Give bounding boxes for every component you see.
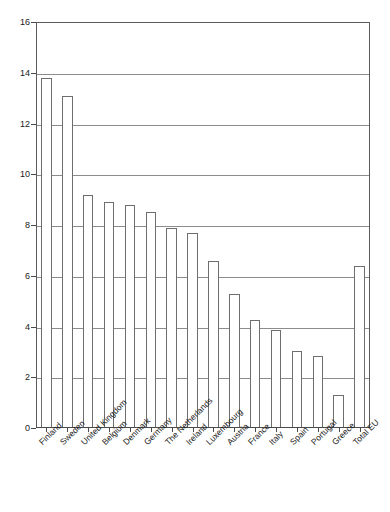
bar [83,195,94,428]
x-tick-mark [46,428,47,432]
y-tick-mark [31,124,36,125]
bar [313,356,324,428]
y-tick-mark [31,327,36,328]
x-tick-mark [234,428,235,432]
bar [354,266,365,428]
bar [250,320,261,428]
bar [104,202,115,428]
y-tick-label: 8 [4,221,30,230]
x-tick-mark [88,428,89,432]
x-tick-mark [318,428,319,432]
x-tick-mark [213,428,214,432]
y-tick-label: 14 [4,68,30,77]
x-tick-mark [193,428,194,432]
y-tick-label: 4 [4,322,30,331]
x-tick-mark [109,428,110,432]
y-tick-mark [31,73,36,74]
bar-chart: 0246810121416 FinlandSwedenUnited Kingdo… [0,0,390,512]
y-tick-mark [31,276,36,277]
y-tick-mark [31,22,36,23]
y-tick-mark [31,377,36,378]
x-tick-label: Spain [289,425,311,447]
bar-series [36,22,370,428]
y-tick-label: 16 [4,18,30,27]
y-tick-mark [31,428,36,429]
y-tick-label: 10 [4,170,30,179]
bar [271,330,282,428]
bar [62,96,73,428]
x-tick-mark [172,428,173,432]
y-tick-label: 6 [4,271,30,280]
bar [146,212,157,428]
bar [292,351,303,428]
bar [125,205,136,428]
x-tick-mark [360,428,361,432]
x-tick-mark [297,428,298,432]
x-tick-mark [255,428,256,432]
x-tick-mark [276,428,277,432]
y-tick-mark [31,174,36,175]
bar [187,233,198,428]
y-tick-mark [31,225,36,226]
bar [41,78,52,428]
bar [166,228,177,428]
x-tick-mark [151,428,152,432]
x-tick-mark [130,428,131,432]
y-axis: 0246810121416 [0,22,30,428]
y-tick-label: 2 [4,373,30,382]
x-tick-mark [339,428,340,432]
y-tick-label: 12 [4,119,30,128]
x-tick-mark [67,428,68,432]
x-tick-label: Italy [268,430,285,447]
y-tick-label: 0 [4,424,30,433]
